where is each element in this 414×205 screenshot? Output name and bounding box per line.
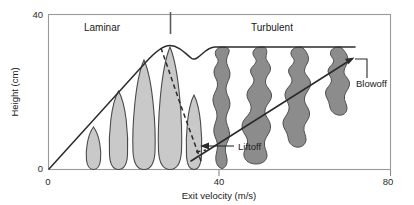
blowoff-leader-line (355, 59, 367, 78)
region-label-turbulent: Turbulent (251, 22, 293, 33)
x-tick-label-80: 80 (383, 176, 394, 187)
turbulent-flame-3 (283, 47, 311, 147)
y-axis-title: Height (cm) (9, 67, 20, 116)
x-axis-title: Exit velocity (m/s) (182, 190, 256, 201)
flame-stability-plot: 40 0 0 40 80 Exit velocity (m/s) Height … (0, 0, 414, 205)
annotation-liftoff: Liftoff (238, 141, 261, 152)
y-tick-label-40: 40 (32, 9, 43, 20)
flame-stability-figure: 40 0 0 40 80 Exit velocity (m/s) Height … (0, 0, 414, 205)
x-tick-label-40: 40 (214, 176, 225, 187)
laminar-flame-3 (133, 60, 155, 170)
annotation-blowoff: Blowoff (356, 78, 387, 89)
laminar-flame-1 (86, 127, 100, 170)
turbulent-flame-group (213, 47, 350, 169)
laminar-flame-2 (109, 91, 127, 170)
region-label-laminar: Laminar (84, 22, 121, 33)
turbulent-flame-1 (213, 47, 230, 169)
y-tick-label-0: 0 (38, 163, 43, 174)
turbulent-flame-4 (325, 47, 349, 115)
x-tick-label-0: 0 (45, 176, 50, 187)
laminar-flame-4 (158, 47, 181, 170)
